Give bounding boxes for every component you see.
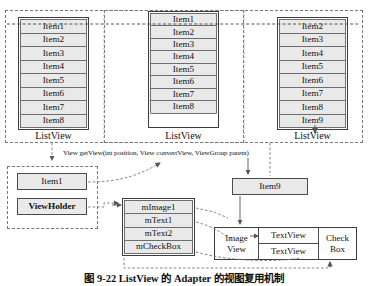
list-item[interactable]: Item8 xyxy=(150,100,217,112)
new-item-box[interactable]: Item9 xyxy=(232,178,308,195)
field-mcheckbox[interactable]: mCheckBox xyxy=(124,240,193,254)
figure-caption: 图 9-22 ListView 的 Adapter 的视图复用机制 xyxy=(0,274,368,285)
list-item-empty xyxy=(150,113,217,126)
check-box-cell[interactable]: Check Box xyxy=(319,228,356,259)
field-mimage1[interactable]: mImage1 xyxy=(124,200,193,213)
list-item[interactable]: Item4 xyxy=(279,46,346,60)
connector-item1-to-getview xyxy=(88,163,160,182)
image-view-cell[interactable]: Image View xyxy=(215,228,258,259)
list-item[interactable]: Item6 xyxy=(279,73,346,87)
list-item[interactable]: Item1 xyxy=(20,19,87,33)
list-item[interactable]: Item8 xyxy=(20,114,87,129)
viewholder-box[interactable]: ViewHolder xyxy=(17,198,87,215)
item-layout[interactable]: Image View TextView TextView Check Box xyxy=(214,227,357,260)
list-item[interactable]: Item6 xyxy=(150,75,217,87)
image-view-line2: View xyxy=(227,244,246,254)
list-item[interactable]: Item3 xyxy=(20,46,87,60)
list-item[interactable]: Item8 xyxy=(279,100,346,114)
list-item[interactable]: Item3 xyxy=(279,33,346,47)
listview-left[interactable]: Item1 Item2 Item3 Item4 Item5 Item6 Item… xyxy=(18,17,89,130)
field-mtext2[interactable]: mText2 xyxy=(124,227,193,240)
check-box-line2: Box xyxy=(330,244,345,254)
list-item[interactable]: Item1 xyxy=(150,13,217,25)
listview-right-caption: ListView xyxy=(277,131,348,141)
field-mtext1[interactable]: mText1 xyxy=(124,213,193,226)
text-view-column[interactable]: TextView TextView xyxy=(259,228,319,259)
list-item[interactable]: Item6 xyxy=(20,87,87,101)
list-item[interactable]: Item4 xyxy=(150,50,217,62)
list-item[interactable]: Item7 xyxy=(150,88,217,100)
listview-middle[interactable]: Item1 Item2 Item3 Item4 Item5 Item6 Item… xyxy=(148,11,219,128)
list-item[interactable]: Item2 xyxy=(20,33,87,47)
listview-left-caption: ListView xyxy=(18,131,89,141)
image-view-line1: Image xyxy=(225,233,248,243)
list-item[interactable]: Item4 xyxy=(20,60,87,74)
listview-middle-caption: ListView xyxy=(148,131,219,141)
list-item[interactable]: Item5 xyxy=(150,63,217,75)
check-box-column[interactable]: Check Box xyxy=(319,228,356,259)
text-view-cell-2[interactable]: TextView xyxy=(259,244,318,259)
check-box-line1: Check xyxy=(326,233,349,243)
figure-canvas: Item1 Item2 Item3 Item4 Item5 Item6 Item… xyxy=(0,0,368,286)
list-item[interactable]: Item3 xyxy=(150,38,217,50)
list-item[interactable]: Item7 xyxy=(20,100,87,114)
list-item[interactable]: Item2 xyxy=(279,19,346,33)
viewholder-fields[interactable]: mImage1 mText1 mText2 mCheckBox xyxy=(122,198,195,256)
list-item[interactable]: Item5 xyxy=(279,60,346,74)
text-view-cell-1[interactable]: TextView xyxy=(259,228,318,244)
list-item[interactable]: Item2 xyxy=(150,25,217,37)
recycled-item-box[interactable]: Item1 xyxy=(17,173,87,190)
getview-signature: View getView(int position, View convertV… xyxy=(63,150,249,157)
listview-right[interactable]: Item2 Item3 Item4 Item5 Item6 Item7 Item… xyxy=(277,17,348,130)
list-item[interactable]: Item5 xyxy=(20,73,87,87)
list-item[interactable]: Item9 xyxy=(279,114,346,129)
list-item[interactable]: Item7 xyxy=(279,87,346,101)
image-view-column[interactable]: Image View xyxy=(215,228,259,259)
